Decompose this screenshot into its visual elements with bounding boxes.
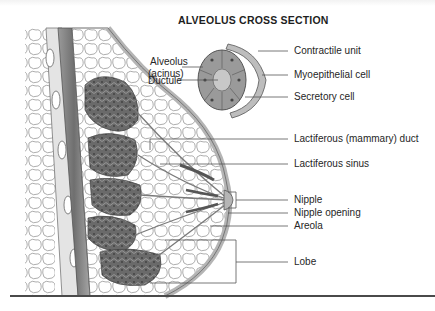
alveolus-cross-section	[198, 44, 266, 118]
label-lactiferous-sinus: Lactiferous sinus	[294, 158, 369, 169]
label-nipple-opening: Nipple opening	[294, 207, 361, 218]
label-nipple: Nipple	[294, 194, 322, 205]
label-secretory-cell: Secretory cell	[294, 91, 355, 102]
label-lactiferous-duct: Lactiferous (mammary) duct	[294, 133, 418, 144]
anatomy-figure: ALVEOLUS CROSS SECTION Alveolus (acinus)…	[0, 0, 435, 311]
inset-title: ALVEOLUS CROSS SECTION	[178, 14, 329, 26]
label-contractile-unit: Contractile unit	[294, 45, 361, 56]
label-ductule: Ductule	[148, 75, 182, 86]
breast-anatomy-illustration	[0, 0, 435, 311]
label-alveolus: Alveolus	[150, 56, 188, 67]
label-lobe: Lobe	[294, 256, 316, 267]
label-myoepithelial-cell: Myoepithelial cell	[294, 69, 370, 80]
label-areola: Areola	[294, 220, 323, 231]
